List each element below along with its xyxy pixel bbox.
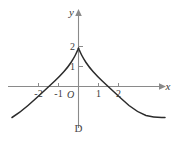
y-axis-label: y (68, 6, 74, 18)
panel-letter-label: D (75, 122, 83, 134)
plot-canvas: x y O -2 -1 1 2 1 2 D (0, 0, 177, 144)
x-tick-label-minus1: -1 (54, 88, 62, 99)
graph-figure: x y O -2 -1 1 2 1 2 D (0, 0, 177, 144)
origin-label: O (67, 89, 74, 100)
x-tick-label-1: 1 (96, 88, 101, 99)
curve-right-branch (79, 48, 165, 117)
x-tick-label-minus2: -2 (34, 88, 42, 99)
y-axis-arrowhead (75, 9, 82, 16)
y-tick-label-1: 1 (70, 61, 75, 72)
x-tick-label-2: 2 (116, 88, 121, 99)
y-tick-label-2: 2 (70, 41, 75, 52)
curve-left-branch (12, 48, 78, 117)
x-axis-label: x (165, 80, 171, 92)
